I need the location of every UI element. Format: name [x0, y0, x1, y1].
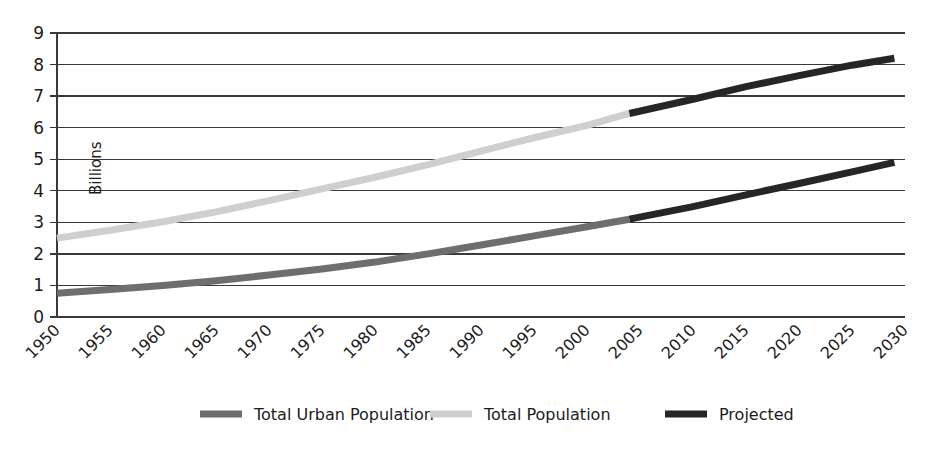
- y-tick-label-2: 2: [33, 244, 44, 264]
- y-tick-label-5: 5: [33, 149, 44, 169]
- y-axis-title: Billions: [87, 141, 105, 195]
- legend-label-total-population: Total Population: [483, 405, 611, 424]
- legend-swatch-total-population: [430, 411, 472, 418]
- y-tick-label-1: 1: [33, 275, 44, 295]
- chart-canvas: 0123456789 19501955196019651970197519801…: [0, 0, 944, 453]
- y-tick-label-0: 0: [33, 307, 44, 327]
- legend-swatch-total-urban-population: [200, 411, 242, 418]
- legend-label-total-urban-population: Total Urban Population: [253, 405, 434, 424]
- y-tick-label-3: 3: [33, 212, 44, 232]
- legend-label-projected: Projected: [719, 405, 794, 424]
- y-tick-label-6: 6: [33, 118, 44, 138]
- population-growth-chart: 0123456789 19501955196019651970197519801…: [0, 0, 944, 453]
- y-tick-label-9: 9: [33, 23, 44, 43]
- y-tick-label-4: 4: [33, 181, 44, 201]
- y-tick-label-8: 8: [33, 55, 44, 75]
- y-tick-label-7: 7: [33, 86, 44, 106]
- legend-swatch-projected: [665, 411, 707, 418]
